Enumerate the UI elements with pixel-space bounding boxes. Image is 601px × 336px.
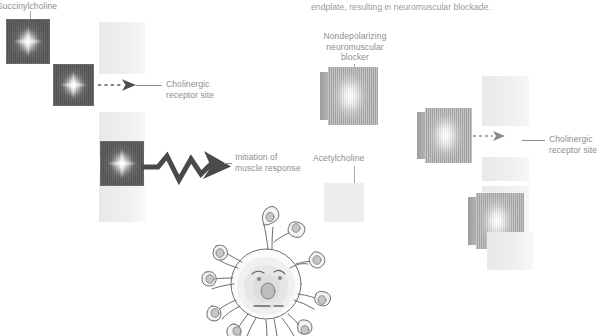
arrow-dashed-right	[473, 128, 513, 144]
label-initiation-of-muscle-response: Initiation of muscle response	[235, 152, 301, 173]
molecule-succinylcholine-free-1	[6, 19, 50, 64]
leader-acetylcholine	[354, 166, 355, 183]
leader-receptor-right	[522, 140, 545, 141]
molecule-succinylcholine-approaching	[53, 64, 94, 106]
molecule-succinylcholine-bound	[100, 141, 144, 186]
receptor-segment-upper	[99, 22, 145, 74]
plate-endplate-lower	[487, 232, 533, 270]
molecule-blocker-free-1	[320, 67, 378, 125]
top-caption: endplate, resulting in neuromuscular blo…	[311, 2, 491, 13]
label-nondepolarizing-blocker: Nondepolarizing neuromuscular blocker	[303, 31, 407, 63]
label-succinylcholine: Succinylcholine	[0, 1, 57, 12]
receptor-segment-mid	[482, 157, 529, 181]
figure-canvas: endplate, resulting in neuromuscular blo…	[0, 0, 601, 336]
label-acetylcholine: Acetylcholine	[313, 153, 364, 164]
molecule-blocker-approaching	[417, 108, 472, 163]
receptor-segment-upper	[482, 76, 529, 126]
leader-receptor-left	[136, 85, 162, 86]
molecule-body	[328, 67, 378, 125]
muscle-cell-illustration	[186, 196, 346, 336]
label-cholinergic-receptor-site-right: Cholinergic receptor site	[549, 134, 597, 155]
arrow-zigzag-muscle-response	[141, 146, 237, 192]
molecule-body	[425, 108, 472, 163]
plate-endplate-left-lower	[99, 186, 145, 222]
label-cholinergic-receptor-site-left: Cholinergic receptor site	[166, 79, 214, 100]
leader-muscle-response	[224, 163, 232, 164]
